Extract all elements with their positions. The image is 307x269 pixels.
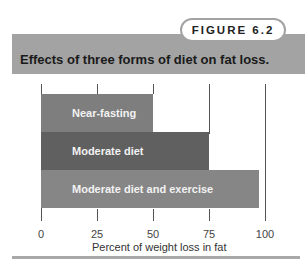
gridline-100 [265, 84, 266, 209]
tick-label-50: 50 [147, 228, 159, 240]
gridline-75 [209, 84, 210, 134]
tick-0 [41, 209, 42, 221]
bar-moderate-diet: Moderate diet [41, 132, 209, 170]
bar-label: Moderate diet and exercise [72, 183, 213, 195]
bar-chart: Near-fasting Moderate diet Moderate diet… [0, 0, 307, 269]
bottom-rule [12, 256, 300, 259]
x-axis-label: Percent of weight loss in fat [92, 241, 227, 253]
tick-75 [209, 209, 210, 221]
bar-near-fasting: Near-fasting [41, 94, 153, 132]
bar-label: Moderate diet [72, 145, 144, 157]
gridline-25 [97, 84, 98, 94]
tick-100 [265, 209, 266, 221]
tick-label-0: 0 [38, 228, 44, 240]
tick-25 [97, 209, 98, 221]
bar-moderate-diet-and-exercise: Moderate diet and exercise [41, 170, 259, 208]
tick-label-25: 25 [91, 228, 103, 240]
bar-label: Near-fasting [72, 107, 136, 119]
tick-50 [153, 209, 154, 221]
tick-label-75: 75 [203, 228, 215, 240]
gridline-50 [153, 84, 154, 94]
tick-label-100: 100 [256, 228, 274, 240]
